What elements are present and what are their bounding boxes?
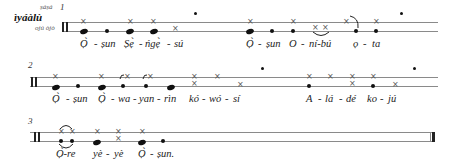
lyric: Ọ̀ [138,148,146,159]
accent-dot [261,67,264,70]
grace-flag [142,74,148,80]
x-mark: × [392,82,398,88]
x-mark: × [247,19,253,25]
note-tone [105,29,109,33]
x-mark: × [327,74,333,80]
accent-dot [400,12,403,15]
x-mark: × [52,74,58,80]
note-tone [76,84,80,88]
note-tone [161,139,165,143]
slur [59,124,73,130]
lyric: yan [139,93,154,104]
lyric: ta [372,38,380,49]
system-number-2: 2 [28,60,33,70]
system-number-3: 3 [28,116,33,126]
x-mark: × [139,129,145,135]
lyric: wó [209,93,221,104]
accent-dot [194,12,197,15]
lyric: sí [233,93,240,104]
lyric: yè [114,148,123,159]
x-mark: × [80,19,86,25]
lyric: Ṣẹ̀ [124,38,134,49]
staff1-start-barline [66,22,68,32]
note-bass [125,28,134,35]
note-bass [51,84,60,91]
lyric: ṣun [101,38,116,49]
staff3-upper-line [30,132,432,133]
lyric: wa [118,93,130,104]
lyric: - [301,38,305,49]
staff3-start-barline [38,132,40,142]
staff2-start-barline [35,77,37,87]
lyric: ṣun. [157,148,174,159]
lyric: - [94,38,98,49]
lyric: - [318,93,322,104]
lyric: Ọ̀ [246,38,254,49]
lyric: - [202,93,206,104]
note-bass [79,28,88,35]
lyric: A [306,93,312,104]
lyric: - [380,93,384,104]
x-mark: × [306,74,312,80]
staff2-start-barline [31,77,33,87]
system-number-1: 1 [60,2,65,12]
slur [312,31,330,37]
staff3-end-barline [432,132,435,142]
tie [349,15,361,29]
lyric: rìn [164,93,176,104]
lyric: jú [388,93,396,104]
note-tone [270,29,274,33]
lyric: - [363,38,367,49]
staff3-lower-line [30,141,432,142]
staff3-end-barline [430,132,431,142]
lyric: Ọ̀ [52,93,60,104]
x-mark: × [214,74,220,80]
lyric: lá [325,93,333,104]
x-mark: × [172,26,178,32]
upper-drum-label: ṣáṣá [40,3,52,11]
x-mark: × [127,19,133,25]
lyric: - [258,38,262,49]
note-tone [291,29,295,33]
lyric: - [133,93,137,104]
note-bass [245,28,254,35]
lyric: Ọ̀ [80,38,88,49]
lyric: - [339,93,343,104]
staff3-start-barline [34,132,36,142]
staff2-lower-line [30,86,438,87]
lyric: - [139,38,143,49]
x-mark: × [150,19,156,25]
note-tone [144,84,148,88]
note-bass [97,84,106,91]
note-tone [121,84,125,88]
lyric: O [289,38,297,49]
lyric: - [150,148,154,159]
note-bass [92,139,101,146]
x-mark: × [94,129,100,135]
x-mark: × [370,74,376,80]
staff1-start-barline [62,22,64,32]
lyric: ṣun [73,93,88,104]
x-mark: × [373,19,379,25]
x-mark: × [191,81,197,87]
lyric: kó [189,93,199,104]
grace-flag [119,74,125,80]
lyric: ko [367,93,377,104]
lyric: dé [346,93,356,104]
lyric: Ọ̀-re [56,148,75,159]
note-bass [149,28,158,35]
x-mark: × [290,19,296,25]
note-bass [137,139,146,146]
note-bass [166,84,175,91]
note-tone [371,84,375,88]
staff2-upper-line [30,77,438,78]
lyric: - [106,148,110,159]
lyric: - [167,38,171,49]
lyric: - [66,93,70,104]
note-tone [374,29,378,33]
lower-drum-label: ojú òjò [35,24,55,32]
lyric: - [157,93,161,104]
lyric: ṣun [266,38,281,49]
x-mark: × [349,81,355,87]
lyric: - [111,93,115,104]
